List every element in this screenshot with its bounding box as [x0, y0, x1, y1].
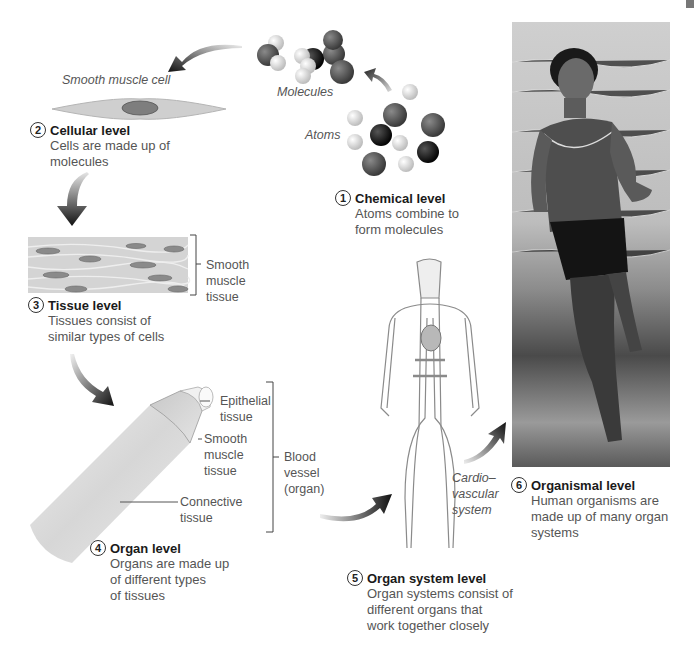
level-title: Organismal level — [531, 478, 635, 493]
smooth-muscle-tissue-label: Smooth muscle tissue — [206, 257, 249, 305]
level-6-organismal: 6Organismal level Human organisms are ma… — [511, 477, 668, 541]
level-description: Organs are made up of different types of… — [90, 556, 229, 604]
level-description: Human organisms are made up of many orga… — [511, 493, 668, 541]
level-1-chemical: 1Chemical level Atoms combine to form mo… — [335, 190, 459, 238]
level-4-organ: 4Organ level Organs are made up of diffe… — [90, 540, 229, 604]
molecules-label: Molecules — [277, 85, 333, 99]
level-title: Chemical level — [355, 191, 445, 206]
level-number-badge: 6 — [511, 477, 527, 493]
level-title: Tissue level — [48, 298, 121, 313]
arrow-atoms-to-molecules-icon — [362, 60, 402, 100]
level-number-badge: 1 — [335, 190, 351, 206]
connective-tissue-label: Connective tissue — [180, 494, 243, 526]
smooth-muscle-cell-illustration — [50, 97, 230, 121]
level-title: Organ system level — [367, 571, 486, 586]
arrow-cell-to-tissue-icon — [45, 170, 95, 230]
arrow-system-to-organism-icon — [462, 418, 512, 468]
level-2-cellular: 2Cellular level Cells are made up of mol… — [30, 122, 170, 170]
arrow-molecules-to-cell-icon — [160, 38, 250, 78]
level-3-tissue: 3Tissue level Tissues consist of similar… — [28, 297, 164, 345]
smooth-muscle-tissue-illustration — [28, 237, 188, 295]
tissue-bracket — [190, 234, 202, 296]
epithelial-tissue-label: Epithelial tissue — [220, 393, 271, 425]
smooth-muscle-cell-label: Smooth muscle cell — [62, 73, 170, 87]
level-number-badge: 3 — [28, 297, 44, 313]
cardiovascular-system-label: Cardio– vascular system — [452, 470, 499, 518]
level-description: Organ systems consist of different organ… — [347, 586, 513, 634]
level-description: Cells are made up of molecules — [30, 138, 170, 170]
atoms-label: Atoms — [305, 128, 340, 142]
runner-photo — [512, 22, 670, 467]
level-number-badge: 4 — [90, 540, 106, 556]
organ-smooth-muscle-tissue-label: Smooth muscle tissue — [204, 431, 247, 479]
corner-marker — [686, 0, 694, 8]
blood-vessel-bracket — [266, 381, 280, 533]
atoms-illustration — [340, 80, 470, 180]
level-title: Organ level — [110, 541, 181, 556]
level-title: Cellular level — [50, 123, 130, 138]
level-description: Atoms combine to form molecules — [335, 206, 459, 238]
level-5-organ-system: 5Organ system level Organ systems consis… — [347, 570, 513, 634]
level-number-badge: 2 — [30, 122, 46, 138]
level-number-badge: 5 — [347, 570, 363, 586]
level-description: Tissues consist of similar types of cell… — [28, 313, 164, 345]
